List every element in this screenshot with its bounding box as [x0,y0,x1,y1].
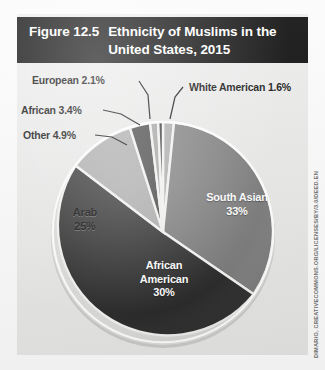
figure-number-label: Figure 12.5 [29,22,99,40]
slice-label-african-american-pct: 30% [119,286,209,300]
slice-label-arab-pct: 25% [45,220,125,234]
slice-label-african-american-name2: American [119,273,209,287]
slice-label-african-american: African American 30% [119,259,209,300]
slice-label-south-asian-name: South Asian [206,191,268,203]
slice-label-african-american-name: African [146,259,183,271]
slice-label-african: African 3.4% [21,104,82,116]
figure-title-bar: Figure 12.5 Ethnicity of Muslims in the … [17,17,308,63]
slice-label-south-asian-pct: 33% [189,205,285,219]
figure-title: Ethnicity of Muslims in the United State… [108,22,298,58]
slice-label-european: European 2.1% [32,74,105,86]
leader-line-white-american [170,87,183,119]
leader-line-african [103,110,140,125]
leader-line-european [139,81,150,119]
slice-label-arab-name: Arab [73,206,97,218]
slice-label-white-american: White American 1.6% [189,81,291,93]
pie-chart: South Asian 33% African American 30% Ara… [17,63,308,355]
slice-label-other: Other 4.9% [23,129,76,141]
image-credit-text: DIMARIO, CREATIVECOMMONS.ORG/LICENSES/BY… [309,168,323,358]
figure-container: Figure 12.5 Ethnicity of Muslims in the … [0,0,325,370]
slice-label-south-asian: South Asian 33% [189,191,285,218]
slice-label-arab: Arab 25% [45,206,125,233]
